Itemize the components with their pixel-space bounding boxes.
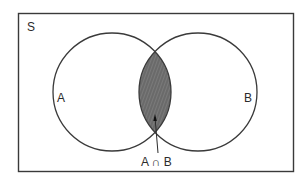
intersection-label: A ∩ B — [141, 155, 172, 169]
universe-label: S — [27, 20, 35, 34]
set-b-label: B — [244, 91, 252, 105]
venn-diagram: S A B A ∩ B — [0, 0, 307, 183]
set-a-label: A — [57, 91, 65, 105]
